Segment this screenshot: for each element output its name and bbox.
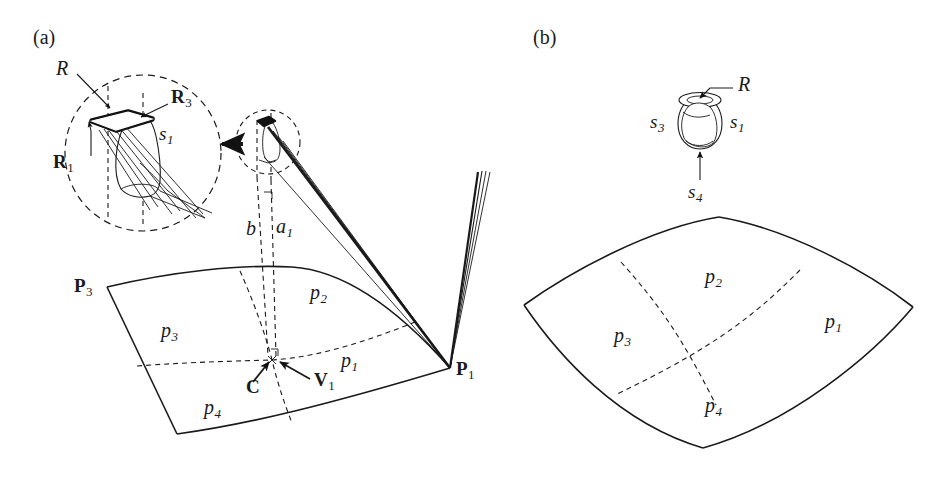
label-s3-sphere: s3	[650, 112, 664, 131]
label-P3-sub: 3	[86, 284, 93, 299]
label-patch-a-p1-base: p	[341, 349, 351, 371]
label-patch-b-p3: p3	[614, 325, 631, 345]
label-patch-a-p4-base: p	[204, 396, 214, 418]
ray-bundle-main-5	[264, 157, 450, 368]
label-a1-base: a	[276, 215, 286, 237]
label-s1-sub: 1	[166, 132, 173, 147]
ray-bundle-up-4	[450, 172, 490, 368]
label-patch-b-p1-base: p	[825, 310, 835, 332]
label-patch-a-p3-base: p	[161, 319, 171, 341]
label-patch-b-p4-sub: 4	[715, 404, 722, 419]
panel-label-a: (a)	[33, 27, 55, 47]
label-P1-sub: 1	[468, 367, 475, 382]
panel-a-inset-group	[65, 74, 243, 231]
label-s3-sphere-sub: 3	[657, 120, 664, 135]
label-patch-b-p4-base: p	[705, 394, 715, 416]
label-V1-sub: 1	[328, 378, 335, 393]
label-b-distance: b	[246, 218, 256, 238]
source-lobe	[263, 123, 280, 162]
panel-b-sphere-group	[678, 88, 733, 180]
label-R-inset: R	[56, 58, 68, 78]
label-R-sphere: R	[738, 74, 750, 94]
patch-b-edge-top-right	[719, 217, 913, 307]
label-patch-b-p2-base: p	[705, 265, 715, 287]
label-patch-b-p1: p1	[825, 311, 842, 331]
label-P3-corner: P3	[74, 276, 93, 295]
label-R3-base: R	[171, 86, 185, 107]
label-patch-b-p1-sub: 1	[835, 320, 842, 335]
patch-b-divider-2	[617, 270, 800, 394]
patch-a-edge-left	[107, 287, 177, 434]
patch-a-edge-top	[107, 266, 450, 368]
label-s4-sphere: s4	[688, 182, 702, 201]
label-a1-distance: a1	[276, 216, 293, 236]
ray-bundle-main-4	[283, 141, 450, 368]
label-patch-a-p3-sub: 3	[171, 329, 178, 344]
panel-label-b: (b)	[533, 27, 556, 47]
patch-b-edge-top-left	[524, 217, 719, 305]
label-R1-sub: 1	[67, 160, 74, 175]
label-s1-inset: s1	[159, 124, 173, 143]
label-patch-b-p2-sub: 2	[715, 275, 722, 290]
label-patch-a-p2: p2	[310, 282, 327, 302]
label-patch-b-p3-sub: 3	[624, 334, 631, 349]
label-R1-base: R	[53, 151, 67, 172]
label-V1-base: V	[314, 369, 328, 390]
label-patch-b-p4: p4	[705, 395, 722, 415]
right-angle-tick-C	[271, 349, 278, 356]
label-patch-a-p3: p3	[161, 320, 178, 340]
label-patch-a-p4: p4	[204, 397, 221, 417]
leader-R1	[89, 122, 91, 156]
label-V1-vector: V1	[314, 370, 335, 389]
label-s1-sphere-sub: 1	[737, 120, 744, 135]
label-s4-sphere-sub: 4	[695, 190, 702, 205]
label-P1-base: P	[456, 358, 468, 379]
label-P3-base: P	[74, 275, 86, 296]
panel-a-source-group	[236, 110, 300, 180]
patch-b-divider-1	[621, 262, 716, 405]
ray-bundle-up-3	[450, 171, 486, 368]
label-patch-a-p4-sub: 4	[214, 406, 221, 421]
leader-R	[77, 74, 110, 108]
label-patch-b-p3-base: p	[614, 324, 624, 346]
leader-R3	[141, 104, 168, 117]
figure-canvas: (a) (b) R R1 R3 s1 b a1 P3 P1 C V1 p1 p2…	[0, 0, 945, 479]
label-patch-a-p1-sub: 1	[351, 359, 358, 374]
patch-a-divider-vertical	[240, 271, 292, 423]
label-s1-sphere: s1	[730, 112, 744, 131]
figure-vector-graphics	[0, 0, 945, 479]
right-angle-tick-source	[264, 192, 272, 199]
label-patch-a-p1: p1	[341, 350, 358, 370]
ray-bundle-up-2	[450, 171, 482, 368]
patch-b-edge-bottom-right	[703, 307, 913, 448]
label-R1-inset: R1	[53, 152, 74, 171]
ray-bundle-up-1	[450, 172, 478, 368]
label-R3-sub: 3	[185, 95, 192, 110]
label-C-center: C	[246, 377, 260, 396]
label-R3-inset: R3	[171, 87, 192, 106]
arrow-V1	[280, 362, 310, 379]
label-a1-sub: 1	[286, 225, 293, 240]
label-P1-corner: P1	[456, 359, 475, 378]
label-patch-b-p2: p2	[705, 266, 722, 286]
sphere-inner-lobe	[682, 103, 717, 147]
label-patch-a-p2-base: p	[310, 281, 320, 303]
panel-a-ray-bundle-group	[264, 127, 490, 368]
label-patch-a-p2-sub: 2	[320, 291, 327, 306]
dropline-a1	[271, 180, 276, 356]
